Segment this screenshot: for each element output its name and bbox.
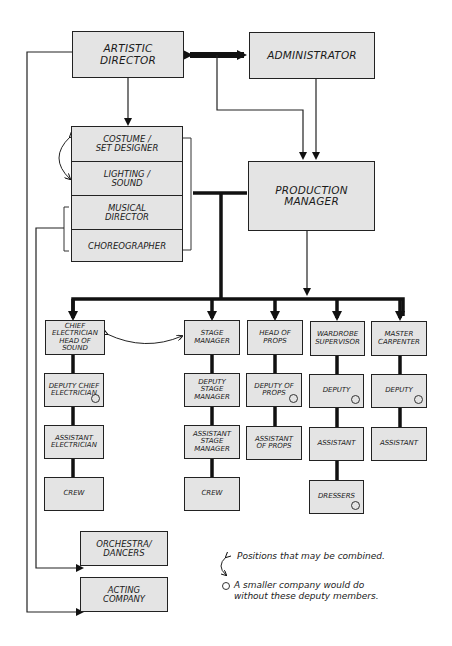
optional-circle-icon [414,395,423,404]
optional-circle-icon [222,582,230,590]
stage-manager-box[interactable]: STAGE MANAGER [184,320,240,355]
administrator-label: ADMINISTRATOR [267,50,357,61]
carpenter-assistant-label: ASSISTANT [380,440,418,447]
lighting-sound-cell[interactable]: LIGHTING / SOUND [72,161,182,195]
electric-crew-box[interactable]: CREW [44,477,104,511]
optional-circle-icon [351,501,360,510]
musical-director-cell[interactable]: MUSICAL DIRECTOR [72,195,182,229]
assistant-electrician-label: ASSISTANT ELECTRICIAN [51,435,97,450]
optional-circle-icon [351,395,360,404]
master-carpenter-label: MASTER CARPENTER [378,331,420,346]
stage-crew-box[interactable]: CREW [184,477,240,511]
optional-circle-icon [289,394,298,403]
acting-company-box[interactable]: ACTING COMPANY [80,577,168,612]
administrator-box[interactable]: ADMINISTRATOR [249,32,375,79]
chief-electrician-label: CHIEF ELECTRICIAN HEAD of SOUND [48,323,102,352]
lighting-sound-label: LIGHTING / SOUND [104,170,150,188]
deputy-stage-manager-label: DEPUTY STAGE MANAGER [194,379,230,401]
acting-company-label: ACTING COMPANY [103,586,145,604]
production-manager-label: PRODUCTION MANAGER [275,185,348,207]
choreographer-label: CHOREOGRAPHER [88,242,166,251]
musical-director-label: MUSICAL DIRECTOR [105,204,149,222]
head-of-props-label: HEAD OF PROPS [259,330,291,345]
deputy-chief-electrician-box[interactable]: DEPUTY CHIEF ELECTRICIAN [44,373,104,407]
wardrobe-assistant-label: ASSISTANT [318,440,356,447]
optional-circle-icon [91,394,100,403]
orchestra-dancers-box[interactable]: ORCHESTRA/ DANCERS [80,531,168,566]
wardrobe-supervisor-label: WARDROBE SUPERVISOR [315,331,360,346]
choreographer-cell[interactable]: CHOREOGRAPHER [72,229,182,262]
wardrobe-supervisor-box[interactable]: WARDROBE SUPERVISOR [310,321,365,356]
deputy-stage-manager-box[interactable]: DEPUTY STAGE MANAGER [184,373,240,407]
wardrobe-assistant-box[interactable]: ASSISTANT [309,427,364,461]
electric-crew-label: CREW [63,490,84,497]
dressers-box[interactable]: DRESSERS [309,480,364,514]
deputy-of-props-label: DEPUTY OF PROPS [254,383,293,398]
assistant-stage-manager-box[interactable]: ASSISTANT STAGE MANAGER [184,425,240,459]
master-carpenter-box[interactable]: MASTER CARPENTER [371,321,427,356]
artistic-director-label: ARTISTIC DIRECTOR [100,43,156,65]
stage-manager-label: STAGE MANAGER [194,330,230,345]
costume-set-designer-label: COSTUME / SET DESIGNER [96,135,159,153]
stage-crew-label: CREW [201,490,222,497]
carpenter-assistant-box[interactable]: ASSISTANT [371,427,427,461]
legend-optional-text: A smaller company would do without these… [234,580,379,603]
production-manager-box[interactable]: PRODUCTION MANAGER [248,161,375,231]
deputy-of-props-box[interactable]: DEPUTY OF PROPS [246,373,302,407]
assistant-of-props-label: ASSISTANT OF PROPS [255,436,293,451]
assistant-stage-manager-label: ASSISTANT STAGE MANAGER [193,431,231,453]
costume-set-designer-cell[interactable]: COSTUME / SET DESIGNER [72,127,182,161]
assistant-of-props-box[interactable]: ASSISTANT OF PROPS [246,426,302,460]
carpenter-deputy-label: DEPUTY [385,387,413,394]
legend-optional: A smaller company would do without these… [222,580,379,603]
wardrobe-deputy-box[interactable]: DEPUTY [309,374,364,408]
chief-electrician-box[interactable]: CHIEF ELECTRICIAN HEAD of SOUND [45,320,105,355]
carpenter-deputy-box[interactable]: DEPUTY [371,374,427,408]
artistic-director-box[interactable]: ARTISTIC DIRECTOR [72,31,184,78]
legend-combined: Positions that may be combined. [237,551,385,562]
creative-team-stack: COSTUME / SET DESIGNER LIGHTING / SOUND … [71,126,183,262]
legend-combined-text: Positions that may be combined. [237,551,385,561]
dressers-label: DRESSERS [318,493,355,500]
orchestra-dancers-label: ORCHESTRA/ DANCERS [96,540,151,558]
assistant-electrician-box[interactable]: ASSISTANT ELECTRICIAN [44,425,104,459]
head-of-props-box[interactable]: HEAD OF PROPS [247,320,303,355]
wardrobe-deputy-label: DEPUTY [323,387,351,394]
